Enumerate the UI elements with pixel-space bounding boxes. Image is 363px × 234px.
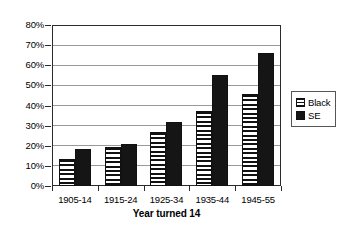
- bar-se-1945-55: [258, 53, 274, 186]
- y-axis-tick-label: 50%: [26, 81, 44, 91]
- y-axis-tick-label: 20%: [26, 141, 44, 151]
- bar-black-1935-44: [196, 111, 212, 186]
- legend-item-black: Black: [296, 96, 332, 109]
- y-axis-tick-mark: [45, 106, 51, 107]
- y-axis-tick-label: 80%: [26, 20, 44, 30]
- y-axis-tick-label: 0%: [31, 181, 44, 191]
- x-axis: 1905-141915-241925-341935-441945-55: [52, 186, 281, 208]
- y-axis-tick-label: 30%: [26, 121, 44, 131]
- legend-label-se: SE: [308, 111, 320, 121]
- bar-group: [98, 25, 144, 186]
- bar-se-1905-14: [75, 149, 91, 186]
- bars-layer: [52, 25, 281, 186]
- x-axis-tick-label: 1945-55: [241, 194, 274, 205]
- legend-item-se: SE: [296, 109, 332, 122]
- y-axis-tick-mark: [45, 146, 51, 147]
- y-axis-tick-label: 40%: [26, 101, 44, 111]
- bar-black-1925-34: [150, 132, 166, 186]
- bar-group: [144, 25, 190, 186]
- x-axis-tick-mark: [281, 186, 282, 191]
- x-axis-tick-mark: [98, 186, 99, 191]
- bar-black-1915-24: [105, 147, 121, 186]
- y-axis-tick-mark: [45, 126, 51, 127]
- x-axis-tick-mark: [189, 186, 190, 191]
- y-axis-tick-mark: [45, 166, 51, 167]
- bar-black-1905-14: [59, 159, 75, 186]
- x-axis-tick-mark: [52, 186, 53, 191]
- x-axis-tick-label: 1915-24: [104, 194, 137, 205]
- y-axis-tick-label: 10%: [26, 161, 44, 171]
- y-axis-tick-label: 70%: [26, 40, 44, 50]
- x-axis-tick-label: 1925-34: [150, 194, 183, 205]
- y-axis-tick-mark: [45, 85, 51, 86]
- y-axis: 0%10%20%30%40%50%60%70%80%: [0, 25, 52, 186]
- legend-label-black: Black: [308, 98, 330, 108]
- chart-legend: Black SE: [291, 91, 336, 127]
- bar-se-1925-34: [166, 122, 182, 186]
- x-axis-tick-label: 1935-44: [196, 194, 229, 205]
- y-axis-tick-mark: [45, 45, 51, 46]
- bar-se-1915-24: [121, 144, 137, 186]
- bar-group: [235, 25, 281, 186]
- x-axis-tick-label: 1905-14: [58, 194, 91, 205]
- y-axis-tick-mark: [45, 65, 51, 66]
- y-axis-tick-mark: [45, 186, 51, 187]
- bar-group: [52, 25, 98, 186]
- legend-swatch-se: [296, 111, 305, 120]
- bar-group: [189, 25, 235, 186]
- bar-se-1935-44: [212, 75, 228, 186]
- y-axis-tick-mark: [45, 25, 51, 26]
- bar-black-1945-55: [242, 94, 258, 186]
- x-axis-tick-mark: [144, 186, 145, 191]
- y-axis-tick-label: 60%: [26, 61, 44, 71]
- bar-chart: 0%10%20%30%40%50%60%70%80% 1905-141915-2…: [0, 0, 363, 234]
- legend-swatch-black: [296, 98, 305, 107]
- x-axis-tick-mark: [235, 186, 236, 191]
- x-axis-title: Year turned 14: [52, 208, 281, 219]
